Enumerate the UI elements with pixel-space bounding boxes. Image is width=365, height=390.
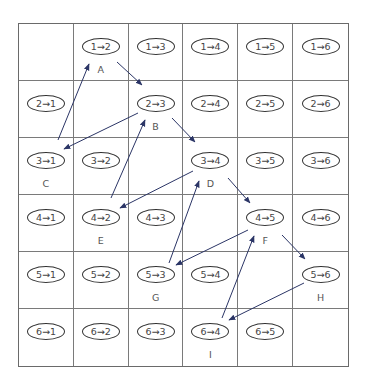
grid-cell: [238, 252, 293, 309]
node-label: H: [293, 292, 348, 303]
transition-oval: 5→3: [137, 266, 175, 283]
transition-oval: 3→6: [302, 152, 340, 169]
grid-cell: 2→5: [238, 81, 293, 138]
transition-oval: 3→2: [82, 152, 120, 169]
grid-cell: 5→1: [19, 252, 74, 309]
grid-cell: 5→2: [74, 252, 129, 309]
grid-cell: 1→2A: [74, 24, 129, 81]
transition-oval: 6→1: [27, 323, 65, 340]
node-label: F: [238, 235, 292, 246]
transition-oval: 6→5: [246, 323, 284, 340]
transition-oval: 2→4: [191, 95, 229, 112]
transition-oval: 1→6: [302, 38, 340, 55]
grid-cell: 5→4: [183, 252, 238, 309]
grid-cell: 4→1: [19, 195, 74, 252]
grid-cell: 3→1C: [19, 138, 74, 195]
grid-cell: [74, 81, 129, 138]
grid-cell: 4→2E: [74, 195, 129, 252]
grid-cell: [129, 138, 184, 195]
grid-cell: 3→2: [74, 138, 129, 195]
grid-cell: 2→1: [19, 81, 74, 138]
transition-oval: 2→6: [302, 95, 340, 112]
transition-oval: 1→4: [191, 38, 229, 55]
grid-cell: 4→6: [293, 195, 348, 252]
transition-oval: 5→4: [191, 266, 229, 283]
grid-cell: 5→6H: [293, 252, 348, 309]
transition-oval: 3→1: [27, 152, 65, 169]
grid-cell: 5→3G: [129, 252, 184, 309]
grid-cell: 1→4: [183, 24, 238, 81]
transition-oval: 5→1: [27, 266, 65, 283]
grid-cell: 1→5: [238, 24, 293, 81]
transition-oval: 6→2: [82, 323, 120, 340]
transition-oval: 2→1: [27, 95, 65, 112]
transition-oval: 4→1: [27, 209, 65, 226]
transition-oval: 6→3: [137, 323, 175, 340]
transition-grid: 1→2A1→31→41→51→62→12→3B2→42→52→63→1C3→23…: [18, 23, 349, 367]
grid-cell: [19, 24, 74, 81]
node-label: C: [19, 178, 73, 189]
transition-oval: 4→5: [246, 209, 284, 226]
grid-cell: 3→4D: [183, 138, 238, 195]
node-label: D: [183, 178, 237, 189]
grid-cell: 2→6: [293, 81, 348, 138]
grid-cell: 4→3: [129, 195, 184, 252]
grid-cell: 3→5: [238, 138, 293, 195]
node-label: G: [129, 292, 183, 303]
node-label: E: [74, 235, 128, 246]
transition-oval: 1→2: [82, 38, 120, 55]
transition-oval: 2→3: [137, 95, 175, 112]
grid-cell: [293, 309, 348, 366]
transition-oval: 5→6: [302, 266, 340, 283]
transition-oval: 6→4: [191, 323, 229, 340]
grid-cell: 6→4I: [183, 309, 238, 366]
node-label: B: [129, 121, 183, 132]
transition-oval: 2→5: [246, 95, 284, 112]
grid-cell: 2→4: [183, 81, 238, 138]
grid-cell: 3→6: [293, 138, 348, 195]
transition-oval: 3→4: [191, 152, 229, 169]
transition-oval: 5→2: [82, 266, 120, 283]
transition-oval: 4→3: [137, 209, 175, 226]
grid-cell: 4→5F: [238, 195, 293, 252]
grid-cell: [183, 195, 238, 252]
transition-oval: 4→6: [302, 209, 340, 226]
node-label: I: [183, 349, 237, 360]
transition-oval: 3→5: [246, 152, 284, 169]
grid-cell: 6→2: [74, 309, 129, 366]
transition-oval: 4→2: [82, 209, 120, 226]
transition-oval: 1→5: [246, 38, 284, 55]
transition-oval: 1→3: [137, 38, 175, 55]
grid-cell: 6→5: [238, 309, 293, 366]
grid-cell: 6→3: [129, 309, 184, 366]
grid-cell: 2→3B: [129, 81, 184, 138]
grid-cell: 1→3: [129, 24, 184, 81]
grid-cell: 6→1: [19, 309, 74, 366]
node-label: A: [74, 64, 128, 75]
grid-cell: 1→6: [293, 24, 348, 81]
